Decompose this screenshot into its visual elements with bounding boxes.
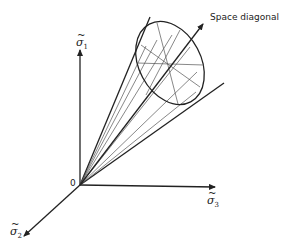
tilde-mark: ~ [208, 188, 216, 198]
tilde-mark: ~ [77, 30, 85, 40]
origin-label: 0 [70, 178, 76, 188]
sigma1-label: ~σ1 [76, 37, 88, 51]
sigma3-label: ~σ3 [207, 195, 219, 209]
sigma2-label: ~σ2 [10, 226, 22, 240]
sigma2-axis [24, 185, 80, 236]
cross-section-ellipse [122, 10, 218, 117]
sigma3-axis [80, 185, 215, 187]
tilde-mark: ~ [11, 219, 19, 229]
cone-diagram [0, 0, 284, 250]
space-diagonal-label: Space diagonal [210, 12, 279, 22]
